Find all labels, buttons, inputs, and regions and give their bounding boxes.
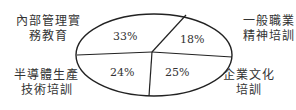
label-line: 企業文化 xyxy=(223,68,275,83)
slice-label-professional-spirit: 一般職業 精神培訓 xyxy=(243,14,295,44)
slice-label-internal-mgmt: 內部管理實 務教育 xyxy=(16,14,81,44)
label-line: 技術培訓 xyxy=(14,83,79,98)
slice-value-33: 33% xyxy=(113,30,137,43)
slice-value-25: 25% xyxy=(165,66,189,79)
slice-label-semiconductor: 半導體生產 技術培訓 xyxy=(14,68,79,98)
label-line: 培訓 xyxy=(223,83,275,98)
label-line: 精神培訓 xyxy=(243,29,295,44)
label-line: 務教育 xyxy=(16,29,81,44)
slice-label-corporate-culture: 企業文化 培訓 xyxy=(223,68,275,98)
label-line: 一般職業 xyxy=(243,14,295,29)
label-line: 半導體生產 xyxy=(14,68,79,83)
slice-value-24: 24% xyxy=(110,66,134,79)
label-line: 內部管理實 xyxy=(16,14,81,29)
slice-value-18: 18% xyxy=(180,33,204,46)
